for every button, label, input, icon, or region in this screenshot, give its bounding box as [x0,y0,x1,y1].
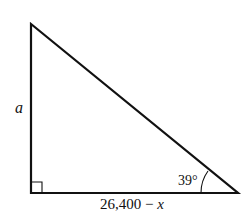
right-triangle [31,24,238,193]
side-label-a: a [15,99,23,116]
triangle-diagram: a 39° 26,400 − x [0,0,250,223]
angle-label: 39° [178,173,198,188]
angle-arc [201,171,208,193]
base-minus: − [141,196,157,212]
right-angle-marker [31,182,42,193]
base-number: 26,400 [100,196,141,212]
base-label: 26,400 − x [100,196,164,212]
base-variable: x [156,196,164,212]
